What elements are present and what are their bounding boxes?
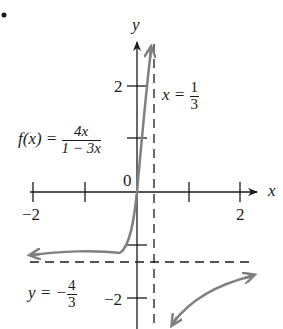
vertical-asymptote-label: x = 13: [162, 80, 199, 113]
y-tick-label-neg2: −2: [104, 291, 122, 308]
function-denominator: 1 − 3x: [62, 141, 101, 157]
x-tick-label-2: 2: [236, 206, 245, 223]
va-lhs: x =: [162, 85, 190, 104]
ha-den: 3: [67, 295, 77, 311]
function-numerator: 4x: [62, 124, 101, 141]
x-axis-label: x: [268, 182, 276, 199]
va-num: 1: [190, 80, 200, 97]
arrow-bottom-end: [172, 317, 177, 325]
va-fraction: 13: [190, 80, 200, 113]
va-den: 3: [190, 97, 200, 113]
curve-right-branch: [173, 276, 252, 323]
y-axis-label: y: [132, 16, 140, 33]
function-fraction: 4x1 − 3x: [62, 124, 101, 157]
arrow-right-end: [245, 275, 254, 278]
function-name: f(x) =: [18, 129, 62, 148]
horizontal-asymptote-label: y = −43: [28, 278, 77, 311]
ha-lhs: y = −: [28, 283, 67, 302]
bullet-dot: [2, 13, 7, 18]
arrow-top-end: [150, 47, 151, 58]
ha-num: 4: [67, 278, 77, 295]
ha-fraction: 43: [67, 278, 77, 311]
x-tick-label-neg2: −2: [22, 206, 40, 223]
function-label: f(x) = 4x1 − 3x: [18, 124, 101, 157]
arrow-left-end: [30, 254, 40, 255]
y-tick-label-2: 2: [114, 78, 123, 95]
origin-label: 0: [123, 172, 132, 189]
